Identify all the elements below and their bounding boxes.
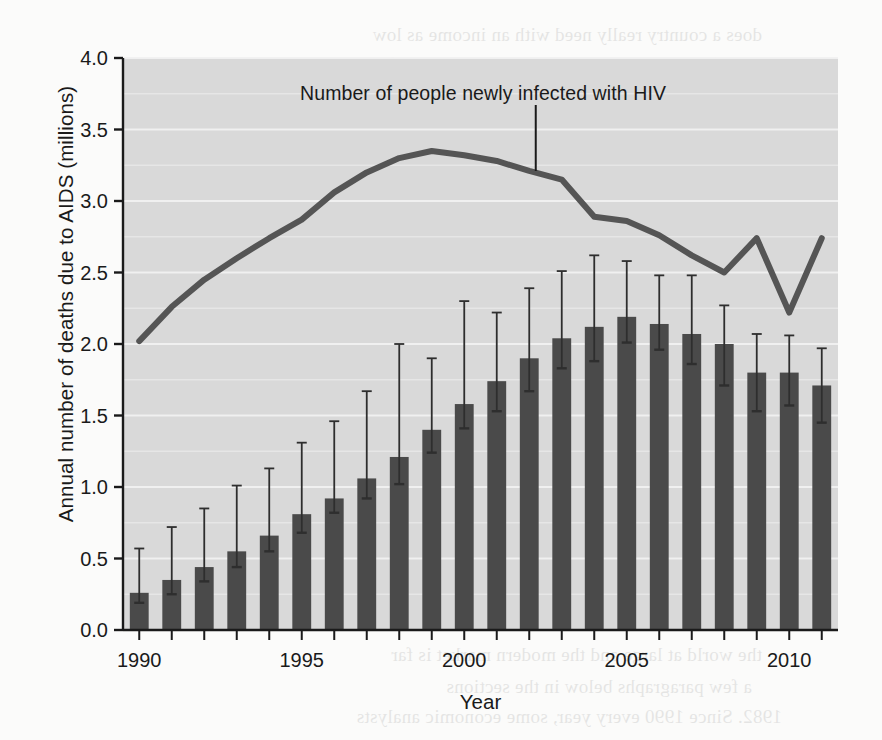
x-tick-label: 1990 [117, 649, 162, 671]
bar [487, 381, 506, 630]
bar [715, 344, 734, 630]
y-tick-label: 1.5 [80, 405, 108, 427]
bar [650, 324, 669, 630]
y-tick-label: 0.0 [80, 619, 108, 641]
bar [455, 404, 474, 630]
y-tick-label: 4.0 [80, 47, 108, 69]
bar [617, 317, 636, 630]
bar [422, 430, 441, 630]
chart-figure: 0.00.51.01.52.02.53.03.54.0 199019952000… [0, 0, 882, 740]
x-tick-label: 2010 [767, 649, 812, 671]
bar [325, 498, 344, 630]
y-axis-label: Annual number of deaths due to AIDS (mil… [54, 24, 78, 584]
y-tick-label: 1.0 [80, 476, 108, 498]
bar [682, 334, 701, 630]
chart-svg: 0.00.51.01.52.02.53.03.54.0 199019952000… [0, 0, 882, 740]
y-tick-label: 2.5 [80, 262, 108, 284]
x-axis-ticks: 19901995200020052010 [117, 630, 822, 671]
bar [357, 478, 376, 630]
bar [552, 338, 571, 630]
y-tick-label: 3.5 [80, 119, 108, 141]
bar [585, 327, 604, 630]
y-axis-ticks: 0.00.51.01.52.02.53.03.54.0 [80, 47, 123, 641]
y-tick-label: 0.5 [80, 548, 108, 570]
x-axis-label: Year [123, 690, 838, 714]
x-tick-label: 2000 [442, 649, 487, 671]
annotation-label: Number of people newly infected with HIV [300, 82, 666, 105]
x-tick-label: 1995 [280, 649, 325, 671]
bar [780, 373, 799, 630]
bar [520, 358, 539, 630]
y-tick-label: 2.0 [80, 333, 108, 355]
x-tick-label: 2005 [605, 649, 650, 671]
y-tick-label: 3.0 [80, 190, 108, 212]
